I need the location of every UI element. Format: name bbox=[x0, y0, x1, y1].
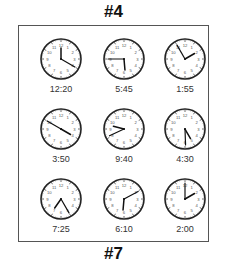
clock-cell: 123456789101112 1:55 bbox=[153, 36, 217, 102]
clock-cell: 123456789101112 6:10 bbox=[92, 176, 156, 242]
svg-text:12: 12 bbox=[122, 113, 127, 118]
svg-text:12: 12 bbox=[59, 183, 64, 188]
worksheet-title-bottom: #7 bbox=[0, 244, 227, 264]
clock-face-icon: 123456789101112 bbox=[38, 106, 84, 152]
svg-text:12: 12 bbox=[183, 113, 188, 118]
svg-text:10: 10 bbox=[47, 50, 52, 55]
svg-text:11: 11 bbox=[176, 185, 181, 190]
clock-label: 12:20 bbox=[29, 84, 93, 94]
clock-face-icon: 123456789101112 bbox=[101, 36, 147, 82]
clock-face-icon: 123456789101112 bbox=[38, 36, 84, 82]
clock-face-icon: 123456789101112 bbox=[162, 176, 208, 222]
svg-text:11: 11 bbox=[176, 115, 181, 120]
clock-face-icon: 123456789101112 bbox=[162, 106, 208, 152]
worksheet-title-top: #4 bbox=[0, 2, 227, 22]
svg-text:11: 11 bbox=[115, 115, 120, 120]
svg-text:10: 10 bbox=[171, 190, 176, 195]
clock-face-icon: 123456789101112 bbox=[162, 36, 208, 82]
clock-label: 6:10 bbox=[92, 224, 156, 234]
svg-text:10: 10 bbox=[110, 190, 115, 195]
svg-text:12: 12 bbox=[122, 183, 127, 188]
clock-label: 5:45 bbox=[92, 84, 156, 94]
clock-label: 1:55 bbox=[153, 84, 217, 94]
svg-text:10: 10 bbox=[110, 50, 115, 55]
clock-cell: 123456789101112 7:25 bbox=[29, 176, 93, 242]
svg-text:12: 12 bbox=[122, 43, 127, 48]
svg-text:10: 10 bbox=[47, 190, 52, 195]
clock-cell: 123456789101112 2:00 bbox=[153, 176, 217, 242]
clock-cell: 123456789101112 5:45 bbox=[92, 36, 156, 102]
svg-text:12: 12 bbox=[183, 43, 188, 48]
svg-text:11: 11 bbox=[115, 45, 120, 50]
clock-label: 7:25 bbox=[29, 224, 93, 234]
clock-face-icon: 123456789101112 bbox=[101, 176, 147, 222]
svg-text:11: 11 bbox=[115, 185, 120, 190]
svg-text:11: 11 bbox=[52, 45, 57, 50]
clock-cell: 123456789101112 4:30 bbox=[153, 106, 217, 172]
clock-cell: 123456789101112 9:40 bbox=[92, 106, 156, 172]
svg-text:10: 10 bbox=[171, 120, 176, 125]
clock-label: 9:40 bbox=[92, 154, 156, 164]
svg-text:12: 12 bbox=[59, 113, 64, 118]
clock-cell: 123456789101112 12:20 bbox=[29, 36, 93, 102]
clock-label: 4:30 bbox=[153, 154, 217, 164]
svg-text:11: 11 bbox=[52, 115, 57, 120]
svg-text:10: 10 bbox=[110, 120, 115, 125]
svg-text:11: 11 bbox=[52, 185, 57, 190]
clock-label: 2:00 bbox=[153, 224, 217, 234]
clock-label: 3:50 bbox=[29, 154, 93, 164]
clock-face-icon: 123456789101112 bbox=[101, 106, 147, 152]
clock-cell: 123456789101112 3:50 bbox=[29, 106, 93, 172]
clock-grid-box: 123456789101112 12:20 123456789101112 5:… bbox=[18, 25, 209, 242]
clock-face-icon: 123456789101112 bbox=[38, 176, 84, 222]
svg-text:10: 10 bbox=[171, 50, 176, 55]
